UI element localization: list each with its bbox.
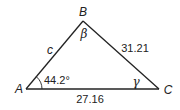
vertex-label-c: C bbox=[164, 83, 173, 97]
angle-label-a: 44.2° bbox=[44, 74, 70, 86]
angle-label-c: γ bbox=[132, 75, 140, 89]
side-label-ac: 27.16 bbox=[76, 93, 104, 105]
triangle-diagram: B A C β 44.2° γ c 31.21 27.16 bbox=[0, 0, 180, 110]
vertex-label-b: B bbox=[79, 5, 87, 19]
side-label-bc: 31.21 bbox=[121, 42, 149, 54]
vertex-label-a: A bbox=[14, 82, 23, 96]
side-bc bbox=[83, 21, 159, 89]
angle-label-b: β bbox=[80, 27, 88, 41]
side-label-ab: c bbox=[47, 43, 53, 57]
angle-arc-a bbox=[36, 77, 42, 89]
